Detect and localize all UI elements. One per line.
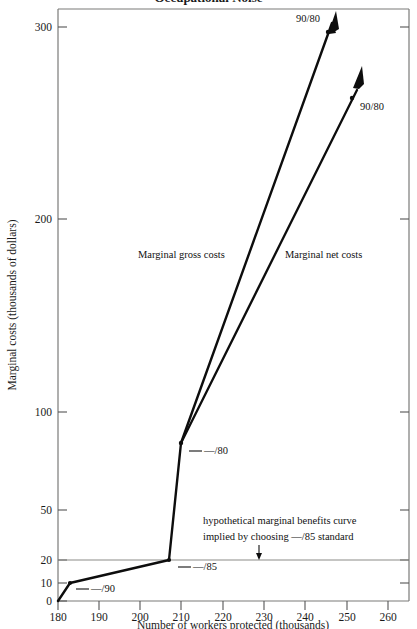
y-axis-title: Marginal costs (thousands of dollars) <box>6 219 19 390</box>
figure-title: Occupational Noise <box>0 0 417 6</box>
marker-point-85 <box>167 558 171 562</box>
y-ticklabel-100: 100 <box>35 406 53 418</box>
y-ticklabel-10: 10 <box>41 577 53 589</box>
series-net-costs-arrowtip <box>353 66 364 89</box>
y-ticklabel-300: 300 <box>35 21 53 33</box>
series-gross-costs-arrowtip <box>329 11 339 32</box>
y-ticklabel-50: 50 <box>41 504 53 516</box>
label-point-85: —/85 <box>192 561 217 572</box>
x-axis-title: Number of workers protected (thousands) <box>137 619 329 629</box>
label-marginal-net-costs: Marginal net costs <box>285 249 362 260</box>
marker-arrow-right-90-80 <box>350 96 354 100</box>
label-marginal-gross-costs: Marginal gross costs <box>138 249 225 260</box>
figure-title-clip: Occupational Noise <box>0 0 417 9</box>
label-point-90: —/90 <box>90 583 115 594</box>
label-arrow-top-90-80: 90/80 <box>296 13 320 24</box>
chart-figure: Occupational Noise 300 200 <box>0 0 417 629</box>
x-axis-ticks <box>58 601 388 610</box>
y-axis-ticks <box>58 27 67 601</box>
y-axis-ticks-right <box>400 27 409 583</box>
y-ticklabel-0: 0 <box>46 595 52 607</box>
marker-point-90 <box>68 581 72 585</box>
label-arrow-right-90-80: 90/80 <box>360 101 384 112</box>
chart-canvas: 300 200 100 50 20 10 0 Marginal costs (t… <box>0 0 417 629</box>
label-benefits-note-line1: hypothetical marginal benefits curve <box>203 515 357 526</box>
x-ticklabel-190: 190 <box>90 611 108 623</box>
x-ticklabel-180: 180 <box>49 611 67 623</box>
label-point-80: —/80 <box>203 445 228 456</box>
marker-arrow-top-90-80 <box>326 30 330 34</box>
x-ticklabel-250: 250 <box>338 611 356 623</box>
series-net-costs-line <box>181 90 357 443</box>
marker-point-80 <box>179 441 183 445</box>
arrowhead-benefits-note <box>256 553 262 560</box>
y-ticklabel-20: 20 <box>41 554 53 566</box>
label-benefits-note-line2: implied by choosing —/85 standard <box>203 531 354 542</box>
x-ticklabel-260: 260 <box>379 611 397 623</box>
y-ticklabel-200: 200 <box>35 213 53 225</box>
